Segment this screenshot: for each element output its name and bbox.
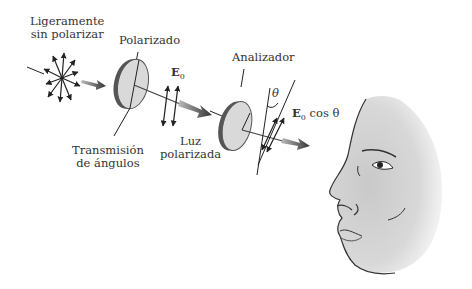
label-theta: θ [272,87,279,100]
e0cos-symbol: E [292,106,301,120]
face-illustration [330,96,443,274]
label-polarized-line2: polarizada [160,148,221,161]
beam-arrow-1 [81,80,106,90]
e0-subscript: 0 [180,72,185,81]
e0-symbol: E [171,65,180,79]
label-unpolarized: Ligeramente sin polarizar [30,15,104,41]
unpolarized-light-icon [44,53,80,102]
label-analyzer: Analizador [232,51,295,64]
label-unpolarized-line2: sin polarizar [30,28,104,41]
polarization-diagram [0,0,472,289]
label-polarized-light: Luz polarizada [160,135,221,161]
label-e0-cos-theta: E0 cos θ [292,107,339,124]
label-transmission-axis: Transmisión de ángulos [72,144,144,170]
label-e0: E0 [171,66,185,83]
incoming-ray [27,67,44,74]
polarizer-disk [109,52,153,136]
beam-arrow-3 [281,138,310,150]
cos-theta-text: cos θ [306,106,340,120]
beam-arrow-2 [178,100,212,118]
e0-cos-theta-arrows [262,118,284,152]
label-polarizer: Polarizado [119,34,180,47]
e0-field-arrows [163,86,178,126]
label-transmission-line2: de ángulos [72,157,144,170]
